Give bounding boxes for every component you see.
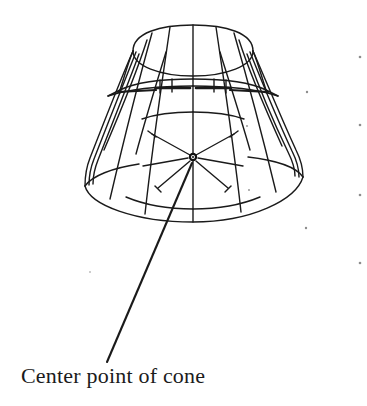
meridian-back-3 <box>220 52 250 150</box>
cone-wireframe-drawing <box>0 0 367 406</box>
center-spoke-upper-left <box>152 134 190 155</box>
figure-canvas: Center point of cone <box>0 0 367 406</box>
speckle-dot <box>89 271 91 273</box>
band-circle-bottom-left <box>126 197 193 209</box>
center-spoke-upper-right <box>196 134 234 155</box>
speckle-dot <box>359 194 362 197</box>
cone-body-group <box>85 25 303 362</box>
speckle-dot <box>306 91 308 93</box>
speckle-dot <box>359 262 362 265</box>
speckle-dot <box>248 189 250 191</box>
bottom-rim-near-arc <box>85 177 303 222</box>
center-spoke-right <box>198 158 243 166</box>
band-bold-stroke-outer-left <box>118 90 156 92</box>
callout-leader-line <box>107 163 192 362</box>
meridian-front-2 <box>145 27 170 214</box>
meridian-front-4 <box>216 27 241 212</box>
speckle-dot <box>246 125 248 127</box>
center-spoke-lower-left <box>158 161 190 188</box>
center-spoke-left <box>143 158 188 166</box>
band-circle-lower-right <box>193 112 244 119</box>
band-circle-bottom-right <box>193 197 260 209</box>
band-bold-stroke-outer-right <box>230 90 268 92</box>
speckle-dot <box>305 227 307 229</box>
center-spoke-lower-right <box>196 161 228 188</box>
band-circle-lower-left <box>142 112 193 119</box>
center-point-node-dot <box>192 156 194 158</box>
speckle-dot <box>359 124 362 127</box>
callout-caption-text: Center point of cone <box>21 363 205 389</box>
speckle-dot <box>359 56 362 59</box>
